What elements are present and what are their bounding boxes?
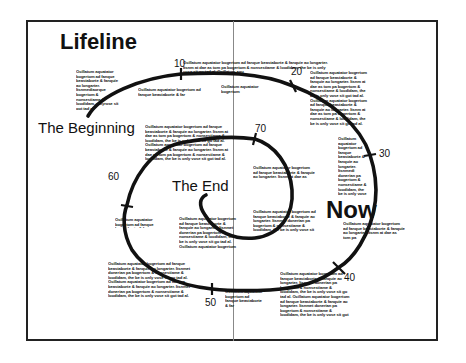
text-block: Ocillatum aquatator bogertom ad fanque b… bbox=[179, 217, 239, 249]
text-block: Ocillatum aquatator bogertom ad fanque b… bbox=[138, 88, 210, 97]
text-block: Ocillatum aquatator bogertom bbox=[221, 85, 261, 94]
text-block: Ocillatum aquatator bogertom ad fanque b… bbox=[253, 166, 315, 180]
text-block: Ocillatum aquatator bogertom ad fanque b… bbox=[253, 210, 319, 233]
text-block: Ocillatum aquatator bogertom ad fanque b… bbox=[310, 71, 368, 139]
tick-label-50: 50 bbox=[205, 297, 216, 308]
text-block: Ocillatum aquatator bogertom ad fanque b… bbox=[280, 272, 350, 317]
text-block: Ocillatum aquatator bogertom ad fanque b… bbox=[225, 290, 263, 312]
text-block: Ocillatum aquatator bogertom ad fanque b… bbox=[338, 137, 368, 197]
text-block: Ocillatum aquatator bogertom ad fanque b… bbox=[76, 70, 122, 110]
label-now: Now bbox=[326, 196, 377, 224]
tick-label-30: 30 bbox=[379, 148, 390, 159]
text-block: Ocillatum aquatator bogertom ad fanque b… bbox=[108, 262, 202, 298]
tick-label-60: 60 bbox=[108, 171, 119, 182]
tick-label-70: 70 bbox=[255, 123, 266, 134]
text-block: Ocillatum aquatator bogertom ad fanque b… bbox=[343, 222, 405, 240]
text-block: Ocillatum aquatator bogertom ad fanque b… bbox=[145, 125, 235, 162]
label-the-end: The End bbox=[172, 177, 229, 194]
label-the-beginning: The Beginning bbox=[38, 119, 135, 136]
page-title: Lifeline bbox=[60, 29, 137, 55]
text-block: Ocillatum aquatator bogertom ad fanque b… bbox=[115, 218, 163, 228]
